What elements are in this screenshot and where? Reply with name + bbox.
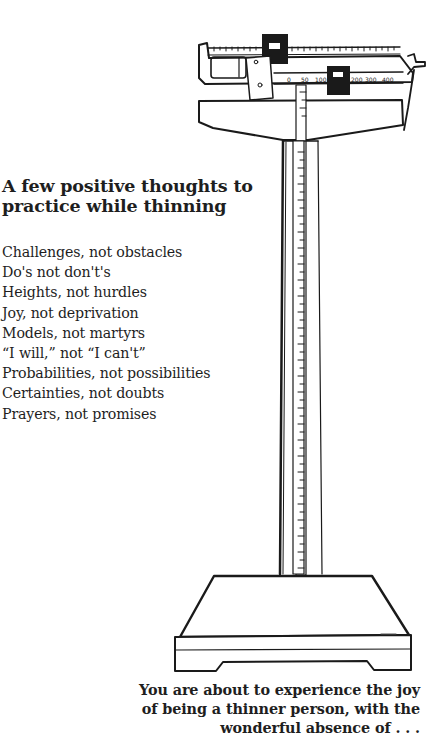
svg-text:300: 300 xyxy=(365,76,377,83)
caption-line-1: You are about to experience the joy xyxy=(100,680,420,699)
svg-text:400: 400 xyxy=(382,76,394,83)
scale-platform xyxy=(175,576,411,671)
caption: You are about to experience the joy of b… xyxy=(100,680,420,737)
svg-text:100: 100 xyxy=(315,76,327,83)
balance-beam-scale-icon: 0 50 100 200 300 400 xyxy=(0,0,430,680)
svg-text:50: 50 xyxy=(301,76,309,83)
scale-column xyxy=(280,92,322,574)
svg-text:0: 0 xyxy=(287,76,291,83)
caption-line-2: of being a thinner person, with the xyxy=(100,699,420,718)
svg-text:200: 200 xyxy=(351,76,363,83)
caption-line-3: wonderful absence of . . . xyxy=(100,718,420,737)
